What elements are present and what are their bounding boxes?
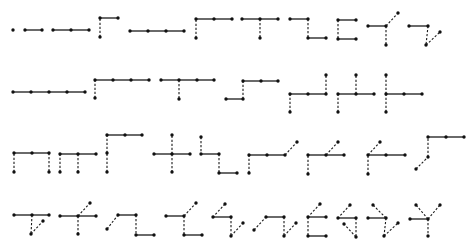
vertex-dot — [229, 215, 232, 218]
vertex-dot — [371, 203, 374, 206]
vertex-dot — [58, 170, 61, 173]
vertex-dot — [212, 78, 215, 81]
vertex-dot — [76, 152, 79, 155]
vertex-dot — [294, 221, 297, 224]
vertex-dot — [372, 92, 375, 95]
vertex-dot — [87, 28, 90, 31]
vertex-dot — [264, 215, 267, 218]
vertex-dot — [324, 73, 327, 76]
vertex-dot — [324, 153, 327, 156]
vertex-dot — [252, 228, 255, 231]
vertex-dot — [235, 171, 238, 174]
vertex-dot — [212, 17, 215, 20]
vertex-dot — [93, 78, 96, 81]
vertex-dot — [76, 170, 79, 173]
vertex-dot — [378, 140, 381, 143]
vertex-dot — [200, 233, 203, 236]
vertex-dot — [288, 92, 291, 95]
vertex-dot — [414, 203, 417, 206]
vertex-dot — [384, 153, 387, 156]
vertex-dot — [98, 35, 101, 38]
vertex-dot — [223, 202, 226, 205]
vertex-dot — [123, 133, 126, 136]
vertex-dot — [69, 28, 72, 31]
vertex-dot — [426, 24, 429, 27]
vertex-dot — [306, 17, 309, 20]
vertex-dot — [177, 78, 180, 81]
vertex-dot — [93, 96, 96, 99]
vertex-dot — [384, 110, 387, 113]
vertex-dot — [276, 17, 279, 20]
vertex-dot — [384, 216, 387, 219]
vertex-dot — [194, 36, 197, 39]
vertex-dot — [182, 233, 185, 236]
vertex-dot — [40, 28, 43, 31]
vertex-dot — [111, 78, 114, 81]
vertex-dot — [408, 217, 411, 220]
vertex-dot — [247, 153, 250, 156]
vertex-dot — [88, 201, 91, 204]
vertex-dot — [29, 232, 32, 235]
vertex-dot — [336, 140, 339, 143]
vertex-dot — [424, 43, 427, 46]
vertex-dot — [217, 152, 220, 155]
vertex-dot — [324, 215, 327, 218]
vertex-dot — [444, 135, 447, 138]
vertex-dot — [336, 110, 339, 113]
vertex-dot — [41, 219, 44, 222]
vertex-dot — [348, 203, 351, 206]
vertex-dot — [12, 213, 15, 216]
vertex-dot — [384, 24, 387, 27]
vertex-dot — [11, 90, 14, 93]
vertex-dot — [47, 170, 50, 173]
vertex-dot — [12, 170, 15, 173]
vertex-dot — [105, 133, 108, 136]
vertex-dot — [306, 36, 309, 39]
vertex-dot — [217, 171, 220, 174]
vertex-dot — [76, 214, 79, 217]
vertex-dot — [140, 133, 143, 136]
vertex-dot — [182, 29, 185, 32]
vertex-dot — [194, 17, 197, 20]
vertex-dot — [94, 214, 97, 217]
vertex-dot — [83, 90, 86, 93]
vertex-dot — [306, 92, 309, 95]
vertex-dot — [354, 73, 357, 76]
vertex-dot — [258, 17, 261, 20]
vertex-dot — [241, 79, 244, 82]
vertex-dot — [306, 234, 309, 237]
vertex-dot — [152, 152, 155, 155]
vertex-dot — [306, 172, 309, 175]
vertex-dot — [128, 29, 131, 32]
vertex-dot — [105, 227, 108, 230]
vertex-dot — [426, 234, 429, 237]
vertex-dot — [29, 90, 32, 93]
tree-figure — [11, 28, 14, 31]
vertex-dot — [146, 29, 149, 32]
vertex-dot — [407, 24, 410, 27]
vertex-dot — [159, 78, 162, 81]
vertex-dot — [306, 215, 309, 218]
vertex-dot — [199, 135, 202, 138]
vertex-dot — [288, 110, 291, 113]
vertex-dot — [164, 214, 167, 217]
vertex-dot — [324, 92, 327, 95]
vertex-dot — [265, 153, 268, 156]
vertex-dot — [170, 133, 173, 136]
vertex-dot — [177, 97, 180, 100]
tree-diagram-canvas — [0, 0, 474, 250]
vertex-dot — [12, 151, 15, 154]
vertex-dot — [105, 170, 108, 173]
vertex-dot — [229, 234, 232, 237]
vertex-dot — [194, 201, 197, 204]
vertex-dot — [384, 92, 387, 95]
vertex-dot — [318, 202, 321, 205]
vertex-dot — [295, 140, 298, 143]
vertex-dot — [76, 232, 79, 235]
vertex-dot — [152, 233, 155, 236]
vertex-dot — [47, 151, 50, 154]
vertex-dot — [414, 167, 417, 170]
vertex-dot — [336, 18, 339, 21]
vertex-dot — [324, 36, 327, 39]
vertex-dot — [288, 17, 291, 20]
